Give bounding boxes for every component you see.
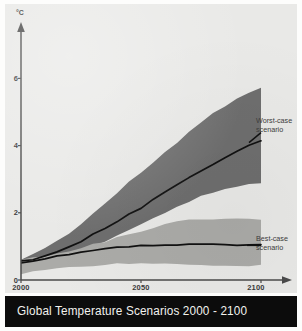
chart-page: °C 0 2 4 6 2000 2050 2100 Worst-case sce… <box>0 0 302 331</box>
chart-title-bar: Global Temperature Scenarios 2000 - 2100 <box>5 296 297 327</box>
x-axis-arrow <box>282 276 292 284</box>
best-case-label: Best-case scenario <box>256 235 288 252</box>
y-axis-arrow <box>17 22 25 32</box>
y-tick-label-2: 2 <box>4 208 18 217</box>
y-axis-unit-label: °C <box>16 9 24 16</box>
chart-title: Global Temperature Scenarios 2000 - 2100 <box>17 304 247 318</box>
best-case-label-line2: scenario <box>256 244 288 253</box>
x-tick-label-2100: 2100 <box>236 283 276 292</box>
x-tick-label-2050: 2050 <box>121 283 161 292</box>
y-tick-label-4: 4 <box>4 141 18 150</box>
worst-case-label: Worst-case scenario <box>256 117 292 134</box>
chart-figure: °C 0 2 4 6 2000 2050 2100 Worst-case sce… <box>5 4 297 293</box>
chart-plot-area <box>5 4 297 293</box>
worst-case-label-line2: scenario <box>256 126 292 135</box>
y-tick-label-6: 6 <box>4 74 18 83</box>
x-tick-label-2000: 2000 <box>1 283 41 292</box>
